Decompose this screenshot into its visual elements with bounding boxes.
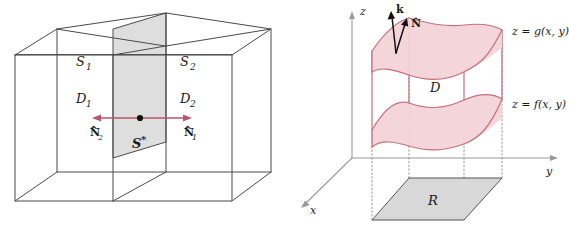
x-axis	[306, 158, 352, 203]
lower-surface-fill	[372, 95, 502, 150]
label-surface-2-subscript: 2	[189, 62, 196, 72]
left-figure-svg: S 1 S 2 D 1 D 2 ^ N 2 ^ N 1 S *	[0, 0, 290, 237]
label-normal-vector: N	[411, 17, 421, 30]
right-figure-svg: R z y x z = g(x, y) z = f(x, y) D k ^ N	[290, 0, 569, 237]
label-solid-region: D	[429, 80, 441, 95]
math-figure-canvas: S 1 S 2 D 1 D 2 ^ N 2 ^ N 1 S *	[0, 0, 569, 237]
label-interior-surface-superscript: *	[141, 134, 147, 145]
k-vector-arrowhead	[388, 11, 396, 19]
label-normal-2-subscript: 2	[97, 133, 103, 142]
y-axis-arrowhead	[550, 155, 558, 161]
label-surface-1: S	[76, 54, 85, 69]
upper-surface-group	[372, 18, 502, 80]
z-axis-arrowhead	[349, 11, 355, 19]
x-axis-arrowhead	[301, 200, 310, 208]
label-base-region: R	[427, 193, 438, 208]
lower-surface-group	[372, 95, 502, 150]
left-figure-panel: S 1 S 2 D 1 D 2 ^ N 2 ^ N 1 S *	[0, 0, 290, 237]
base-region-group: R	[372, 178, 502, 220]
label-surface-1-subscript: 1	[86, 62, 92, 72]
label-surface-2: S	[180, 54, 189, 69]
label-x-axis: x	[310, 204, 317, 217]
label-normal-1-subscript: 1	[192, 133, 197, 142]
label-y-axis: y	[545, 165, 553, 178]
label-k-vector: k	[396, 3, 404, 16]
label-region-1-subscript: 1	[86, 99, 92, 109]
normal-vector-1-arrowhead	[183, 115, 192, 122]
label-interior-surface: S	[132, 136, 141, 151]
normal-vector-2-arrowhead	[92, 115, 101, 122]
label-z-axis: z	[359, 5, 366, 18]
label-lower-surface-equation: z = f(x, y)	[511, 98, 566, 111]
right-figure-panel: R z y x z = g(x, y) z = f(x, y) D k ^ N	[290, 0, 569, 237]
label-region-2-subscript: 2	[189, 99, 196, 109]
surface-base-point	[137, 115, 143, 121]
label-upper-surface-equation: z = g(x, y)	[511, 25, 569, 38]
